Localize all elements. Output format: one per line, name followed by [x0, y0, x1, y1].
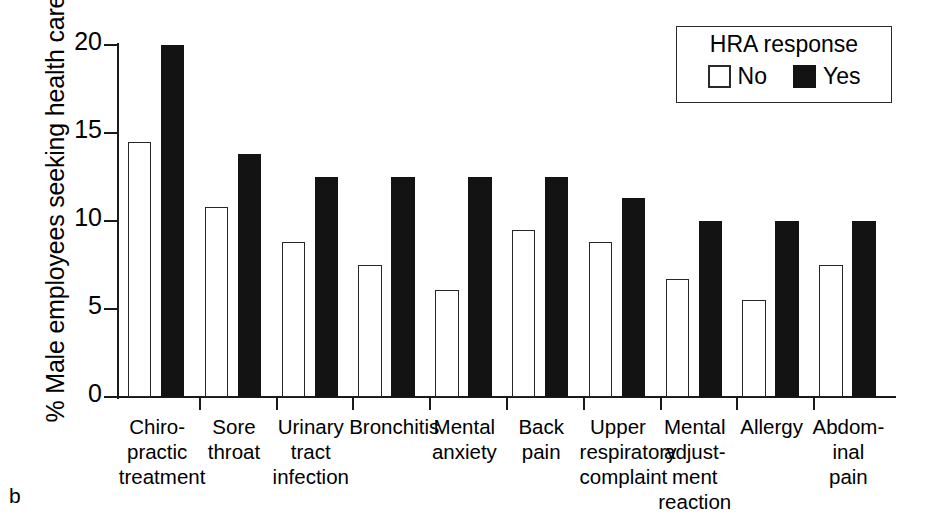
x-tick-8	[736, 397, 738, 410]
legend-entry-no: No	[708, 65, 767, 88]
category-label-9: Abdom- inal pain	[810, 414, 887, 489]
bar-yes-2	[315, 177, 338, 397]
bar-yes-3	[391, 177, 414, 397]
category-label-4: Mental anxiety	[426, 414, 503, 464]
category-label-1: Sore throat	[196, 414, 273, 464]
bar-yes-8	[775, 221, 798, 397]
x-tick-4	[429, 397, 431, 410]
legend-swatch-no-icon	[708, 65, 731, 88]
y-tick-10	[104, 220, 118, 222]
bar-no-5	[512, 230, 535, 397]
y-tick-label-10: 10	[40, 205, 102, 230]
bar-no-0	[128, 142, 151, 397]
y-tick-20	[104, 44, 118, 46]
bar-no-1	[205, 207, 228, 397]
legend-swatch-yes-icon	[793, 65, 816, 88]
category-label-6: Upper respiratory complaint	[580, 414, 657, 489]
y-tick-0	[104, 396, 118, 398]
legend-title: HRA response	[677, 31, 891, 58]
bar-yes-7	[699, 221, 722, 397]
bar-no-9	[819, 265, 842, 397]
x-tick-6	[583, 397, 585, 410]
y-tick-label-0: 0	[40, 381, 102, 406]
y-tick-5	[104, 308, 118, 310]
bar-yes-4	[468, 177, 491, 397]
x-tick-9	[813, 397, 815, 410]
x-tick-1	[199, 397, 201, 410]
legend-entries: No Yes	[677, 65, 891, 88]
legend-label-no: No	[738, 65, 767, 88]
category-label-2: Urinary tract infection	[272, 414, 349, 489]
bar-yes-5	[545, 177, 568, 397]
x-tick-2	[276, 397, 278, 410]
bar-yes-6	[622, 198, 645, 397]
x-tick-5	[506, 397, 508, 410]
bar-no-7	[666, 279, 689, 397]
legend: HRA response No Yes	[676, 26, 892, 103]
category-label-3: Bronchitis	[349, 414, 426, 439]
x-tick-7	[660, 397, 662, 410]
legend-entry-yes: Yes	[793, 65, 861, 88]
bar-no-8	[742, 300, 765, 397]
y-tick-15	[104, 132, 118, 134]
x-tick-3	[352, 397, 354, 410]
bar-no-3	[358, 265, 381, 397]
bar-no-6	[589, 242, 612, 397]
y-tick-label-15: 15	[40, 117, 102, 142]
category-label-5: Back pain	[503, 414, 580, 464]
bar-chart-figure: % Male employees seeking health care 051…	[0, 0, 929, 532]
category-label-0: Chiro- practic treatment	[119, 414, 196, 489]
bar-yes-1	[238, 154, 261, 397]
bar-yes-0	[161, 45, 184, 397]
category-label-8: Allergy	[733, 414, 810, 439]
category-label-7: Mental adjust- ment reaction	[656, 414, 733, 514]
panel-letter: b	[9, 484, 21, 508]
legend-label-yes: Yes	[823, 65, 861, 88]
bar-no-2	[282, 242, 305, 397]
y-tick-label-20: 20	[40, 29, 102, 54]
y-tick-label-5: 5	[40, 293, 102, 318]
bar-yes-9	[852, 221, 875, 397]
bar-no-4	[435, 290, 458, 397]
